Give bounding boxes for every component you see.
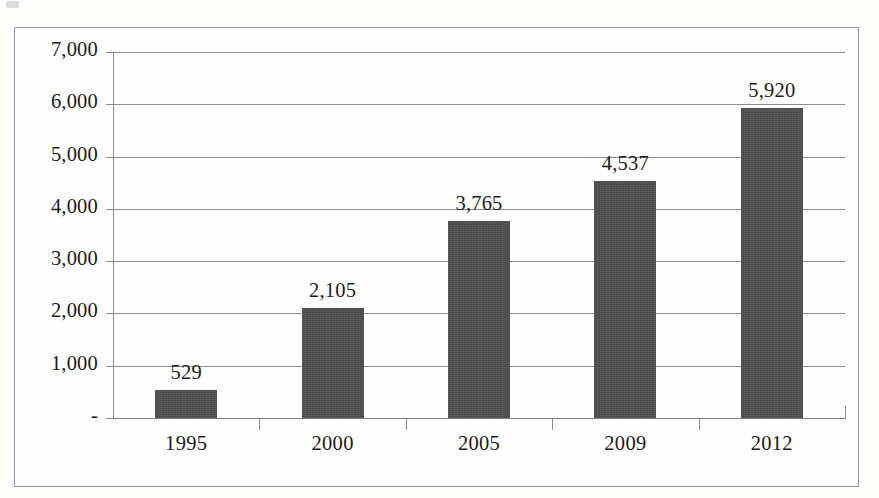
gridline-6000 — [113, 104, 845, 105]
x-axis-label-1995: 1995 — [116, 432, 256, 455]
bar-value-label-2009: 4,537 — [555, 152, 695, 175]
bar-1995[interactable] — [155, 390, 217, 418]
gridline-0 — [113, 418, 845, 419]
bar-value-label-2005: 3,765 — [409, 192, 549, 215]
x-axis-label-2000: 2000 — [263, 432, 403, 455]
y-axis-label-0: - — [0, 404, 98, 427]
gridline-7000 — [113, 52, 845, 53]
y-axis-label-2000: 2,000 — [0, 299, 98, 322]
x-axis-tick-2 — [552, 419, 553, 430]
bar-value-label-2012: 5,920 — [702, 79, 842, 102]
x-axis-tick-1 — [406, 419, 407, 430]
chart-figure: -1,0002,0003,0004,0005,0006,0007,0005291… — [0, 0, 879, 498]
bar-2012[interactable] — [741, 108, 803, 418]
y-axis-tick-2000 — [106, 313, 113, 314]
y-axis-label-5000: 5,000 — [0, 143, 98, 166]
bar-2000[interactable] — [302, 308, 364, 418]
y-axis-tick-3000 — [106, 261, 113, 262]
bar-value-label-1995: 529 — [116, 361, 256, 384]
bar-2009[interactable] — [594, 181, 656, 418]
x-axis-tick-0 — [259, 419, 260, 430]
x-axis-tick-3 — [699, 419, 700, 430]
y-axis-label-1000: 1,000 — [0, 352, 98, 375]
x-axis-label-2005: 2005 — [409, 432, 549, 455]
y-axis-label-3000: 3,000 — [0, 247, 98, 270]
y-axis-tick-5000 — [106, 157, 113, 158]
y-axis-tick-4000 — [106, 209, 113, 210]
gridline-5000 — [113, 157, 845, 158]
y-axis-tick-1000 — [106, 366, 113, 367]
x-axis-end-cap — [845, 406, 846, 419]
bar-2005[interactable] — [448, 221, 510, 418]
y-axis-label-4000: 4,000 — [0, 195, 98, 218]
x-axis-label-2009: 2009 — [555, 432, 695, 455]
y-axis-tick-7000 — [106, 52, 113, 53]
y-axis-label-7000: 7,000 — [0, 38, 98, 61]
scan-artifact-top-left — [6, 1, 19, 8]
bar-value-label-2000: 2,105 — [263, 279, 403, 302]
y-axis-tick-0 — [106, 418, 113, 419]
y-axis-tick-6000 — [106, 104, 113, 105]
x-axis-label-2012: 2012 — [702, 432, 842, 455]
y-axis-label-6000: 6,000 — [0, 90, 98, 113]
